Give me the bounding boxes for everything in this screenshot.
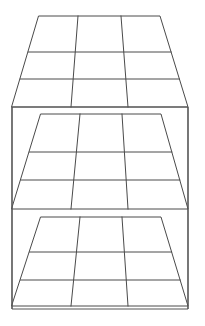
shelf-rack-illustration	[0, 0, 205, 326]
top-shelf-group	[12, 16, 188, 107]
top-shelf-surface	[12, 16, 188, 107]
middle-shelf-group	[12, 114, 188, 209]
bottom-shelf-surface	[12, 217, 188, 306]
shelf-drawing-canvas	[0, 0, 205, 326]
middle-shelf-surface	[12, 114, 188, 209]
bottom-shelf-group	[12, 217, 188, 306]
